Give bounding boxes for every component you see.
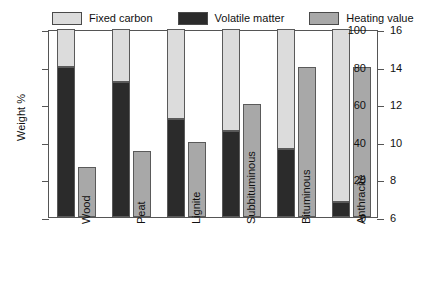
y-axis-right-tick-14	[377, 69, 384, 70]
legend-label-fixed-carbon: Fixed carbon	[89, 13, 153, 24]
y-axis-left-ticklabel-80: 80	[354, 63, 366, 74]
legend-label-heating-value: Heating value	[346, 13, 413, 24]
y-axis-left-tick-60	[42, 106, 49, 107]
bar-segment-volatile-matter	[167, 119, 185, 217]
bar-group-lignite	[159, 31, 214, 217]
stacked-bar-wood	[57, 29, 75, 217]
y-axis-right-ticklabel-16: 16	[390, 25, 402, 36]
y-axis-right-tick-10	[377, 144, 384, 145]
x-axis-label-wood: Wood	[81, 195, 92, 224]
legend-item-volatile-matter: Volatile matter	[178, 12, 285, 25]
legend-swatch-fixed-carbon	[52, 12, 82, 25]
stacked-bar-anthracite	[332, 29, 350, 217]
y-axis-right-ticklabel-14: 14	[390, 63, 402, 74]
bar-segment-volatile-matter	[57, 67, 75, 217]
bar-segment-volatile-matter	[277, 149, 295, 217]
plot-inner: 0204060801006810121416	[49, 31, 377, 217]
y-axis-left-tick-20	[42, 181, 49, 182]
y-axis-left-tick-100	[42, 31, 49, 32]
y-axis-right-ticklabel-12: 12	[390, 100, 402, 111]
bar-segment-fixed-carbon	[332, 29, 350, 202]
y-axis-right-tick-12	[377, 106, 384, 107]
y-axis-right-tick-8	[377, 181, 384, 182]
y-axis-left-ticklabel-100: 100	[348, 25, 366, 36]
bar-group-subbituminous	[214, 31, 269, 217]
y-axis-left-tick-0	[42, 219, 49, 220]
bar-segment-fixed-carbon	[167, 29, 185, 119]
y-axis-left-ticklabel-40: 40	[354, 138, 366, 149]
bar-group-bituminous	[269, 31, 324, 217]
x-axis-label-anthracite: Anthracite	[356, 174, 367, 224]
chart-legend: Fixed carbon Volatile matter Heating val…	[52, 9, 397, 27]
plot-area: 0204060801006810121416	[48, 30, 378, 218]
legend-item-heating-value: Heating value	[309, 12, 413, 25]
y-axis-right-ticklabel-6: 6	[390, 213, 396, 224]
bar-segment-fixed-carbon	[112, 29, 130, 82]
bar-segment-fixed-carbon	[277, 29, 295, 149]
stacked-bar-bituminous	[277, 29, 295, 217]
legend-swatch-volatile-matter	[178, 12, 208, 25]
bar-segment-fixed-carbon	[222, 29, 240, 131]
bar-group-anthracite	[324, 31, 379, 217]
x-axis-label-subbituminous: Subbituminous	[246, 151, 257, 224]
bar-segment-volatile-matter	[112, 82, 130, 217]
y-axis-left-tick-40	[42, 144, 49, 145]
legend-label-volatile-matter: Volatile matter	[215, 13, 285, 24]
x-axis-label-lignite: Lignite	[191, 192, 202, 224]
y-axis-right-tick-16	[377, 31, 384, 32]
y-axis-left-ticklabel-60: 60	[354, 100, 366, 111]
stacked-bar-subbituminous	[222, 29, 240, 217]
bar-group-wood	[49, 31, 104, 217]
legend-item-fixed-carbon: Fixed carbon	[52, 12, 153, 25]
bar-segment-volatile-matter	[222, 131, 240, 217]
coal-rank-chart: Fixed carbon Volatile matter Heating val…	[0, 0, 424, 300]
x-axis-label-peat: Peat	[136, 201, 147, 224]
legend-swatch-heating-value	[309, 12, 339, 25]
bar-segment-volatile-matter	[332, 202, 350, 217]
y-axis-left-title: Weight %	[16, 94, 27, 141]
stacked-bar-peat	[112, 29, 130, 217]
y-axis-right-ticklabel-10: 10	[390, 138, 402, 149]
y-axis-right-ticklabel-8: 8	[390, 175, 396, 186]
stacked-bar-lignite	[167, 29, 185, 217]
bar-segment-fixed-carbon	[57, 29, 75, 67]
x-axis-label-bituminous: Bituminous	[301, 170, 312, 224]
y-axis-right-tick-6	[377, 219, 384, 220]
bar-group-peat	[104, 31, 159, 217]
y-axis-left-tick-80	[42, 69, 49, 70]
